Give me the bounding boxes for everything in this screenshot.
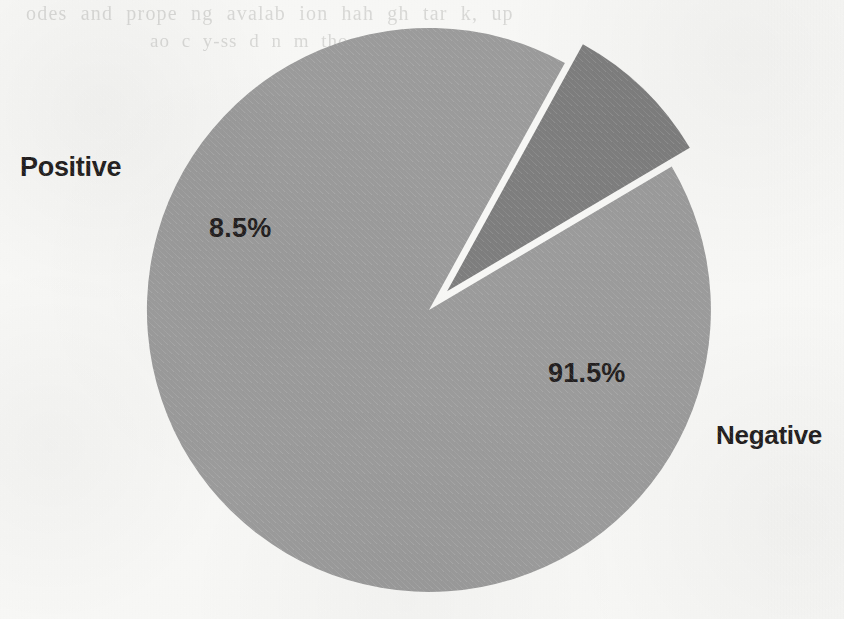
slice-label-positive: Positive [20, 152, 121, 183]
pie-chart-svg [0, 0, 844, 619]
pie-chart: 8.5% 91.5% Positive Negative [0, 0, 844, 619]
scanned-page: odes and prope ng avalab ion hah gh tar … [0, 0, 844, 619]
slice-value-negative: 91.5% [548, 358, 626, 389]
slice-value-positive: 8.5% [209, 213, 271, 244]
slice-label-negative: Negative [716, 420, 822, 451]
